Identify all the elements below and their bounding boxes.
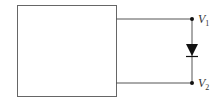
circuit-diagram: V1 V2 <box>0 0 219 100</box>
node-v2-label: V2 <box>198 76 209 92</box>
black-box <box>18 6 117 97</box>
node-v1-dot <box>190 17 194 21</box>
node-v1-label: V1 <box>198 12 209 28</box>
node-v2-dot <box>190 81 194 85</box>
diode-symbol <box>186 44 198 57</box>
diode-triangle <box>186 44 198 56</box>
